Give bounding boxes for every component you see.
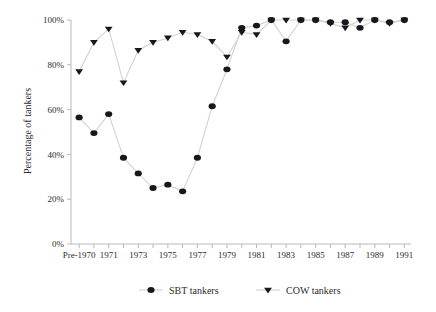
data-point-marker [356, 25, 363, 31]
x-tick-label: 1971 [100, 250, 118, 260]
data-point-marker [149, 185, 156, 191]
chart-container: Percentage of tankers 0%20%40%60%80%100%… [0, 0, 436, 312]
data-point-marker [105, 111, 112, 117]
data-point-marker [179, 188, 186, 194]
data-point-marker [282, 38, 289, 44]
data-point-marker [342, 19, 349, 25]
data-point-marker [238, 25, 245, 31]
x-tick-label: 1981 [248, 250, 266, 260]
data-point-marker [223, 66, 230, 72]
data-point-marker [120, 155, 127, 161]
y-tick-label: 20% [48, 194, 65, 204]
legend-label: COW tankers [286, 285, 341, 296]
y-tick-label: 0% [52, 239, 65, 249]
x-tick-label: 1983 [277, 250, 296, 260]
data-point-marker [164, 182, 171, 188]
data-point-marker [90, 130, 97, 136]
x-tick-label: 1977 [188, 250, 207, 260]
x-tick-label: 1991 [395, 250, 413, 260]
data-point-marker [253, 23, 260, 29]
y-tick-label: 60% [48, 105, 65, 115]
data-point-marker [135, 171, 142, 177]
y-axis-title: Percentage of tankers [22, 88, 33, 174]
x-tick-label: Pre-1970 [63, 250, 96, 260]
tanker-percentage-line-chart: Percentage of tankers 0%20%40%60%80%100%… [0, 0, 436, 312]
x-tick-label: 1979 [218, 250, 237, 260]
x-tick-label: 1987 [336, 250, 355, 260]
y-tick-label: 100% [43, 15, 65, 25]
data-point-marker [194, 155, 201, 161]
x-tick-label: 1985 [307, 250, 326, 260]
x-tick-label: 1989 [366, 250, 385, 260]
x-tick-label: 1973 [129, 250, 148, 260]
y-tick-label: 80% [48, 60, 65, 70]
legend-marker-circle-icon [147, 287, 154, 293]
y-tick-label: 40% [48, 150, 65, 160]
data-point-marker [76, 115, 83, 121]
legend-label: SBT tankers [169, 285, 219, 296]
data-point-marker [209, 103, 216, 109]
x-tick-label: 1975 [159, 250, 178, 260]
